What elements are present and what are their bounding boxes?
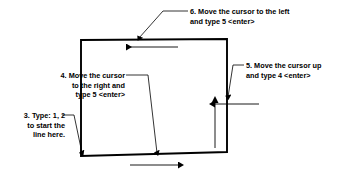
leader-line-callout-3 — [62, 115, 82, 153]
callout-label-4: 4. Move the cursor to the right and type… — [33, 71, 125, 100]
callout-label-3: 3. Type: 1, 2 to start the line here. — [2, 111, 65, 140]
leader-line-callout-5 — [228, 65, 244, 97]
callout-label-5: 5. Move the cursor up and type 4 <enter> — [246, 61, 342, 80]
diagram-canvas: 6. Move the cursor to the left and type … — [0, 0, 344, 180]
leader-line-callout-6 — [139, 11, 188, 38]
callout-label-6: 6. Move the cursor to the left and type … — [190, 7, 340, 26]
